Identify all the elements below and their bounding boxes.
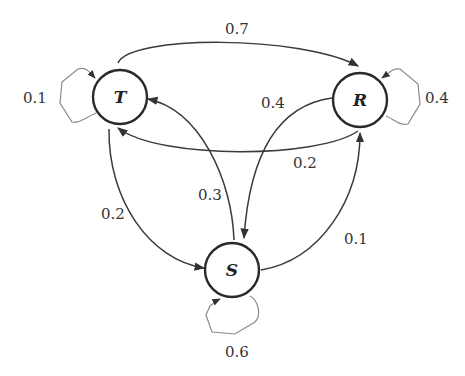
label-s-self: 0.6	[225, 343, 249, 361]
node-t-label: T	[114, 87, 128, 107]
node-r: R	[333, 73, 387, 127]
state-diagram: T R S 0.7 0.1 0.2 0.4 0.4 0.2 0.3 0.1 0.…	[0, 0, 465, 376]
node-t: T	[93, 70, 147, 124]
edge-r-to-s	[244, 98, 332, 238]
loop-t	[60, 68, 96, 122]
edge-t-to-s	[109, 129, 204, 268]
label-s-to-t: 0.3	[198, 186, 222, 204]
label-t-to-r: 0.7	[225, 20, 249, 38]
label-r-to-t: 0.2	[293, 154, 317, 172]
label-s-to-r: 0.1	[344, 230, 368, 248]
node-r-label: R	[352, 90, 367, 110]
label-r-self: 0.4	[425, 89, 449, 107]
node-s: S	[205, 243, 259, 297]
edge-r-to-t	[118, 128, 358, 152]
label-r-to-s: 0.4	[261, 94, 285, 112]
label-t-self: 0.1	[23, 89, 47, 107]
loop-s	[206, 296, 259, 334]
edge-t-to-r	[118, 42, 358, 66]
node-s-label: S	[226, 260, 238, 280]
edge-s-to-t	[148, 99, 234, 240]
label-t-to-s: 0.2	[101, 205, 125, 223]
